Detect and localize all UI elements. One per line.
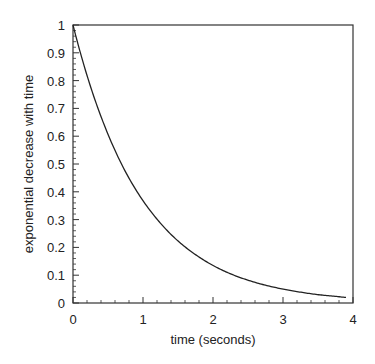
y-tick-label: 0.6 <box>47 129 65 144</box>
y-tick-label: 0.3 <box>47 213 65 228</box>
y-tick-label: 0.1 <box>47 268 65 283</box>
y-tick-label: 0.2 <box>47 240 65 255</box>
x-axis-label: time (seconds) <box>170 332 255 347</box>
y-tick-label: 0.5 <box>47 157 65 172</box>
x-tick-label: 2 <box>209 312 216 327</box>
plot-frame <box>73 25 353 303</box>
y-tick-label: 0.9 <box>47 46 65 61</box>
y-tick-label: 1 <box>58 18 65 33</box>
x-tick-label: 0 <box>69 312 76 327</box>
y-axis-label: exponential decrease with time <box>21 75 36 254</box>
x-tick-label: 3 <box>279 312 286 327</box>
y-tick-label: 0 <box>58 296 65 311</box>
y-tick-label: 0.8 <box>47 74 65 89</box>
y-tick-label: 0.4 <box>47 185 65 200</box>
y-tick-label: 0.7 <box>47 101 65 116</box>
exponential-decay-chart: 00.10.20.30.40.50.60.70.80.91 01234 time… <box>0 0 375 364</box>
x-axis-ticks: 01234 <box>69 297 356 327</box>
decay-curve <box>73 25 346 297</box>
y-axis-ticks: 00.10.20.30.40.50.60.70.80.91 <box>47 18 79 311</box>
x-tick-label: 1 <box>139 312 146 327</box>
x-tick-label: 4 <box>349 312 356 327</box>
